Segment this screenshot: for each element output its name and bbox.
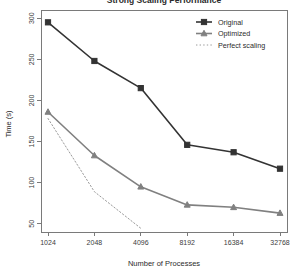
data-point-marker bbox=[45, 109, 51, 115]
x-axis-ticks: 10242048409681921638432768 bbox=[40, 232, 290, 246]
y-tick-label: 50 bbox=[28, 220, 35, 228]
series-line-optimized bbox=[48, 112, 280, 213]
y-tick-label: 200 bbox=[28, 95, 35, 107]
series-layer bbox=[45, 20, 283, 229]
x-tick-label: 32768 bbox=[270, 239, 290, 246]
x-axis-title: Number of Processes bbox=[128, 259, 200, 268]
x-tick-label: 8192 bbox=[179, 239, 195, 246]
legend-marker bbox=[201, 19, 206, 24]
legend-label: Optimized bbox=[218, 29, 250, 38]
x-tick-label: 4096 bbox=[133, 239, 149, 246]
data-point-marker bbox=[277, 166, 282, 171]
y-tick-label: 300 bbox=[28, 12, 35, 24]
scaling-line-chart: Strong Scaling Performance 5010015020025… bbox=[0, 0, 300, 278]
x-tick-label: 1024 bbox=[40, 239, 56, 246]
data-point-marker bbox=[185, 142, 190, 147]
legend-label: Original bbox=[218, 18, 243, 27]
chart-title: Strong Scaling Performance bbox=[107, 0, 222, 5]
data-point-marker bbox=[231, 150, 236, 155]
y-tick-label: 250 bbox=[28, 53, 35, 65]
chart-legend: OriginalOptimizedPerfect scaling bbox=[196, 18, 265, 50]
legend-label: Perfect scaling bbox=[218, 41, 265, 50]
data-point-marker bbox=[138, 86, 143, 91]
y-tick-label: 150 bbox=[28, 136, 35, 148]
chart-figure: Strong Scaling Performance 5010015020025… bbox=[0, 0, 300, 278]
y-tick-label: 100 bbox=[28, 177, 35, 189]
x-tick-label: 2048 bbox=[87, 239, 103, 246]
data-point-marker bbox=[45, 20, 50, 25]
y-axis-title: Time (s) bbox=[4, 110, 13, 138]
y-axis-ticks: 50100150200250300 bbox=[28, 12, 41, 227]
series-line-perfect-scaling bbox=[48, 119, 141, 229]
x-tick-label: 16384 bbox=[224, 239, 244, 246]
data-point-marker bbox=[92, 58, 97, 63]
